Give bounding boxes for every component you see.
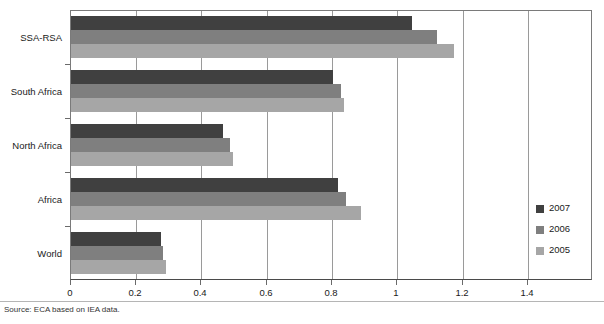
y-axis-tick (65, 226, 70, 227)
bar-2005 (71, 44, 454, 58)
bar-2006 (71, 138, 230, 152)
x-axis-tick (266, 280, 267, 285)
bar-2006 (71, 30, 437, 44)
legend-label-2006: 2006 (549, 223, 570, 234)
y-axis-label-south-africa: South Africa (0, 86, 62, 97)
y-axis-label-africa: Africa (0, 194, 62, 205)
source-divider (0, 301, 604, 302)
y-axis-label-ssa-rsa: SSA-RSA (0, 32, 62, 43)
bar-2005 (71, 98, 344, 112)
gridline (463, 11, 464, 279)
bar-2006 (71, 192, 346, 206)
x-axis-tick-label: 1 (376, 287, 416, 298)
x-axis-tick-label: 0.6 (246, 287, 286, 298)
x-axis-tick (396, 280, 397, 285)
x-axis-tick-label: 0 (50, 287, 90, 298)
bar-2005 (71, 152, 233, 166)
gridline (528, 11, 529, 279)
x-axis-tick-label: 0.2 (115, 287, 155, 298)
bar-2005 (71, 206, 361, 220)
x-axis-tick (135, 280, 136, 285)
bar-2007 (71, 70, 333, 84)
bar-2006 (71, 246, 163, 260)
x-axis-tick (331, 280, 332, 285)
x-axis-tick (462, 280, 463, 285)
x-axis-tick-label: 1.4 (507, 287, 547, 298)
y-axis-label-world: World (0, 248, 62, 259)
y-axis-tick (65, 64, 70, 65)
y-axis-label-north-africa: North Africa (0, 140, 62, 151)
legend-label-2005: 2005 (549, 244, 570, 255)
legend-swatch-2006 (536, 226, 544, 234)
x-axis-tick-label: 1.2 (442, 287, 482, 298)
legend-swatch-2007 (536, 205, 544, 213)
legend-swatch-2005 (536, 247, 544, 255)
x-axis-tick (527, 280, 528, 285)
bar-2005 (71, 260, 166, 274)
bar-2007 (71, 232, 161, 246)
bar-chart: SSA-RSA South Africa North Africa Africa… (0, 0, 604, 324)
x-axis-tick (70, 280, 71, 285)
bar-2007 (71, 178, 338, 192)
x-axis-tick-label: 0.4 (180, 287, 220, 298)
bar-2006 (71, 84, 341, 98)
y-axis-tick (65, 118, 70, 119)
y-axis-tick (65, 172, 70, 173)
source-note: Source: ECA based on IEA data. (4, 305, 120, 314)
legend-label-2007: 2007 (549, 202, 570, 213)
plot-area (70, 10, 592, 280)
bar-2007 (71, 16, 412, 30)
x-axis-tick-label: 0.8 (311, 287, 351, 298)
bar-2007 (71, 124, 223, 138)
x-axis-tick (200, 280, 201, 285)
